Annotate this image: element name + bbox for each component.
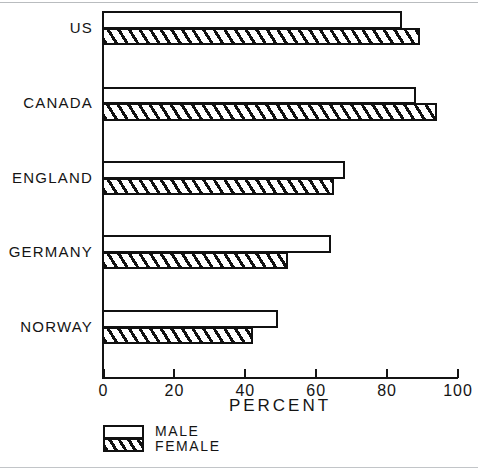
x-axis-tick — [244, 369, 246, 378]
legend-label-male: MALE — [155, 424, 200, 439]
category-label-england: ENGLAND — [0, 169, 93, 187]
category-label-norway: NORWAY — [0, 318, 93, 336]
x-axis-title: PERCENT — [102, 396, 458, 416]
bar-female — [102, 103, 437, 121]
x-axis-tick — [173, 369, 175, 378]
bar-male — [102, 310, 278, 328]
chart-figure: 020406080100 USCANADAENGLANDGERMANYNORWA… — [0, 0, 478, 474]
bar-female — [102, 28, 420, 46]
x-axis-tick — [103, 369, 105, 378]
bar-male — [102, 235, 331, 253]
category-label-us: US — [0, 19, 93, 37]
bar-male — [102, 87, 416, 105]
x-axis-tick — [386, 369, 388, 378]
legend-swatch-female — [103, 438, 144, 452]
category-label-germany: GERMANY — [0, 243, 93, 261]
x-axis-tick — [315, 369, 317, 378]
bar-female — [102, 178, 334, 196]
x-axis-line — [102, 377, 458, 379]
bar-female — [102, 252, 288, 270]
bar-male — [102, 11, 402, 29]
legend-label-female: FEMALE — [155, 439, 221, 454]
bar-female — [102, 327, 253, 345]
legend-swatch-male — [103, 425, 144, 439]
category-label-canada: CANADA — [0, 94, 93, 112]
x-axis-tick — [457, 369, 459, 378]
plot-area: 020406080100 USCANADAENGLANDGERMANYNORWA… — [0, 0, 478, 474]
bar-male — [102, 161, 345, 179]
